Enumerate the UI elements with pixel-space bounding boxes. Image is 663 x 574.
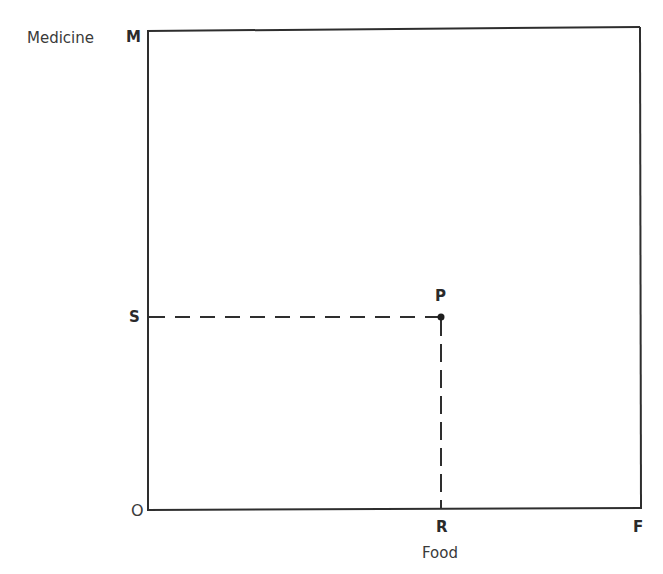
point-p-marker xyxy=(438,314,445,321)
x-axis-name-label: Food xyxy=(422,546,458,561)
x-axis-end-label: F xyxy=(633,520,643,535)
y-axis-name-label: Medicine xyxy=(27,31,94,46)
right-border-line xyxy=(640,27,641,509)
origin-label: O xyxy=(131,503,144,519)
point-y-label: S xyxy=(129,310,140,325)
top-border-line xyxy=(147,27,640,31)
point-x-label: R xyxy=(436,520,448,535)
y-axis-end-label: M xyxy=(126,30,141,45)
point-label: P xyxy=(435,289,446,304)
x-axis-line xyxy=(147,508,642,510)
diagram-canvas xyxy=(0,0,663,574)
frame-box xyxy=(147,27,642,510)
